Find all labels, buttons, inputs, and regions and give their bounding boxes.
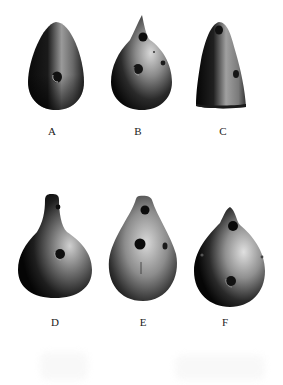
scan-artifact [175, 355, 265, 380]
label-e: E [133, 316, 153, 328]
label-a: A [42, 125, 62, 137]
artifact-f-image [190, 205, 268, 309]
artifact-b-image [108, 12, 176, 112]
label-d: D [45, 316, 65, 328]
artifact-c-image [193, 20, 249, 112]
artifact-d-image [15, 192, 95, 302]
label-c: C [213, 125, 233, 137]
scan-artifact [40, 352, 88, 380]
figure-plate: A B [0, 0, 283, 385]
artifact-a-image [25, 20, 87, 112]
label-b: B [128, 125, 148, 137]
artifact-e-image [105, 194, 181, 304]
label-f: F [215, 316, 235, 328]
